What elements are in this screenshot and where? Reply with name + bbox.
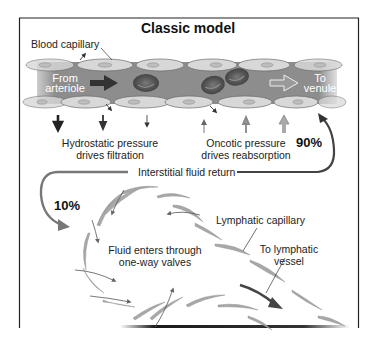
label-blood-capillary: Blood capillary — [31, 38, 99, 50]
label-oncotic-line2: drives reabsorption — [196, 149, 296, 161]
label-fluid-enters-line2: one-way valves — [100, 256, 210, 268]
oncotic-arrows — [204, 115, 289, 133]
label-to-lymphatic-line1: To lymphatic — [254, 243, 324, 255]
diagram-title: Classic model — [128, 22, 248, 34]
label-lymphatic-capillary: Lymphatic capillary — [216, 214, 305, 226]
label-90-percent: 90% — [296, 137, 322, 149]
label-interstitial-fluid-return: Interstitial fluid return — [136, 166, 237, 178]
hydrostatic-arrows — [54, 115, 147, 130]
label-hydrostatic-line1: Hydrostatic pressure — [50, 137, 170, 149]
label-hydrostatic-line2: drives filtration — [50, 149, 170, 161]
label-oncotic-line1: Oncotic pressure — [196, 137, 296, 149]
label-fluid-enters-line1: Fluid enters through — [100, 244, 210, 256]
label-to-lymphatic-line2: vessel — [254, 255, 324, 267]
label-10-percent: 10% — [54, 200, 80, 212]
label-to-venule-line2: venule — [300, 83, 340, 94]
classic-model-diagram: Classic model Blood capillary From arter… — [0, 0, 377, 343]
label-from-arteriole-line2: arteriole — [40, 83, 90, 94]
